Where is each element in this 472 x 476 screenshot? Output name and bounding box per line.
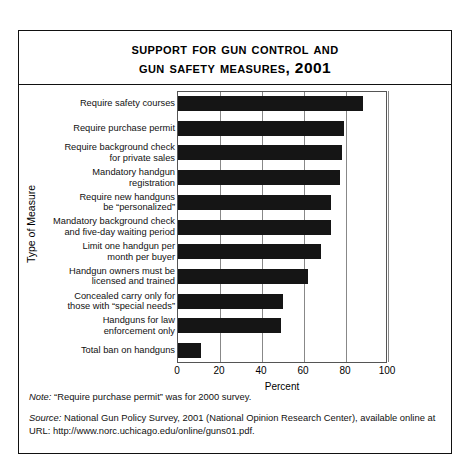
note-row: Note: “Require purchase permit” was for … xyxy=(29,391,441,403)
category-label-line: Require new handguns xyxy=(39,192,175,203)
category-label: Require safety courses xyxy=(39,98,175,109)
category-label-line: registration xyxy=(39,178,175,189)
bar xyxy=(178,294,283,309)
category-label-line: Total ban on handguns xyxy=(39,345,175,356)
category-label-line: Require safety courses xyxy=(39,98,175,109)
x-tick-label: 20 xyxy=(213,365,224,376)
category-label: Require new handgunsbe “personalized” xyxy=(39,192,175,213)
category-label: Mandatory handgunregistration xyxy=(39,167,175,188)
category-label-line: and five-day waiting period xyxy=(39,227,175,238)
category-label-line: be “personalized” xyxy=(39,202,175,213)
category-label: Limit one handgun permonth per buyer xyxy=(39,241,175,262)
bar xyxy=(178,318,281,333)
chart-axes xyxy=(177,91,387,363)
bar xyxy=(178,195,331,210)
category-label: Require purchase permit xyxy=(39,123,175,134)
x-tick-label: 0 xyxy=(174,365,180,376)
category-label: Handgun owners must belicensed and train… xyxy=(39,266,175,287)
source-text: National Gun Policy Survey, 2001 (Nation… xyxy=(29,412,435,435)
bar xyxy=(178,244,321,259)
category-label-list: Require safety coursesRequire purchase p… xyxy=(39,91,175,363)
bar xyxy=(178,220,331,235)
category-label-line: Mandatory handgun xyxy=(39,167,175,178)
gridline-100 xyxy=(388,91,389,362)
x-tick-label: 80 xyxy=(339,365,350,376)
category-label-line: Require background check xyxy=(39,142,175,153)
bar xyxy=(178,96,363,111)
y-axis-label-text: Type of Measure xyxy=(25,185,37,263)
category-label: Require background checkfor private sale… xyxy=(39,142,175,163)
y-axis-label: Type of Measure xyxy=(23,85,39,363)
bar xyxy=(178,269,308,284)
source-label: Source: xyxy=(29,412,61,423)
category-label-line: licensed and trained xyxy=(39,276,175,287)
category-label: Total ban on handguns xyxy=(39,345,175,356)
source-row: Source: National Gun Policy Survey, 2001… xyxy=(29,412,441,437)
figure-notes: Note: “Require purchase permit” was for … xyxy=(19,391,451,437)
category-label-line: Concealed carry only for xyxy=(39,291,175,302)
chart-plot-region: Type of Measure Require safety coursesRe… xyxy=(19,85,451,391)
category-label-line: those with “special needs” xyxy=(39,301,175,312)
category-label: Concealed carry only forthose with “spec… xyxy=(39,291,175,312)
figure-container: Support for Gun Control and Gun Safety M… xyxy=(18,30,452,454)
category-label: Handguns for lawenforcement only xyxy=(39,315,175,336)
category-label-line: Handgun owners must be xyxy=(39,266,175,277)
category-label-line: Require purchase permit xyxy=(39,123,175,134)
bar xyxy=(178,121,344,136)
x-tick-label: 40 xyxy=(255,365,266,376)
bar xyxy=(178,343,201,358)
bar xyxy=(178,145,342,160)
category-label-line: Handguns for law xyxy=(39,315,175,326)
note-label: Note: xyxy=(29,391,51,402)
page-title-line-1: Support for Gun Control and xyxy=(131,40,338,59)
category-label-line: month per buyer xyxy=(39,252,175,263)
category-label-line: Limit one handgun per xyxy=(39,241,175,252)
category-label-line: enforcement only xyxy=(39,326,175,337)
x-tick-label: 100 xyxy=(379,365,396,376)
category-label: Mandatory background checkand five-day w… xyxy=(39,216,175,237)
page-title-line-2: Gun Safety Measures, 2001 xyxy=(139,59,331,78)
figure-title-box: Support for Gun Control and Gun Safety M… xyxy=(19,31,451,85)
note-text: “Require purchase permit” was for 2000 s… xyxy=(54,391,251,402)
gridline-80 xyxy=(346,91,347,362)
x-tick-label: 60 xyxy=(297,365,308,376)
category-label-line: for private sales xyxy=(39,153,175,164)
category-label-line: Mandatory background check xyxy=(39,216,175,227)
bar xyxy=(178,170,340,185)
